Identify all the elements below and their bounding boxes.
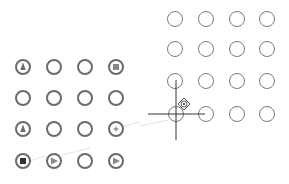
crosshair-cursor-icon xyxy=(148,80,205,140)
grid-node-empty[interactable] xyxy=(230,74,245,89)
grid-node-empty[interactable] xyxy=(260,12,275,27)
grid-node-empty[interactable] xyxy=(47,122,61,136)
square-icon xyxy=(113,64,119,70)
grid-node-empty[interactable] xyxy=(16,91,30,105)
grid-node-empty[interactable] xyxy=(168,42,183,57)
left-pattern-grid xyxy=(16,60,123,168)
grid-node-empty[interactable] xyxy=(199,42,214,57)
grid-node-play[interactable] xyxy=(47,154,61,168)
grid-node-empty[interactable] xyxy=(168,12,183,27)
grid-node-empty[interactable] xyxy=(260,107,275,122)
grid-node-empty[interactable] xyxy=(78,154,92,168)
grid-node-square[interactable] xyxy=(109,60,123,74)
grid-node-empty[interactable] xyxy=(230,107,245,122)
grid-node-triangle[interactable] xyxy=(16,60,30,74)
grid-node-empty[interactable] xyxy=(260,74,275,89)
grid-node-empty[interactable] xyxy=(230,12,245,27)
grid-node-empty[interactable] xyxy=(199,12,214,27)
grid-node-empty[interactable] xyxy=(230,42,245,57)
square-icon xyxy=(20,158,26,164)
grid-node-triangle[interactable] xyxy=(16,122,30,136)
grid-node-empty[interactable] xyxy=(78,91,92,105)
grid-node-play[interactable] xyxy=(109,154,123,168)
grid-node-empty[interactable] xyxy=(78,122,92,136)
grid-node-empty[interactable] xyxy=(168,74,183,89)
grid-node-empty[interactable] xyxy=(47,91,61,105)
grid-node-empty[interactable] xyxy=(260,42,275,57)
drag-node-icon xyxy=(178,98,190,110)
grid-node-empty[interactable] xyxy=(78,60,92,74)
grid-node-empty[interactable] xyxy=(47,60,61,74)
grid-node-empty[interactable] xyxy=(109,91,123,105)
grid-node-plus[interactable] xyxy=(109,122,123,136)
pattern-canvas[interactable]: Pattern grid editor xyxy=(0,0,289,184)
grid-node-empty[interactable] xyxy=(199,74,214,89)
grid-node-square-dark[interactable] xyxy=(16,154,30,168)
